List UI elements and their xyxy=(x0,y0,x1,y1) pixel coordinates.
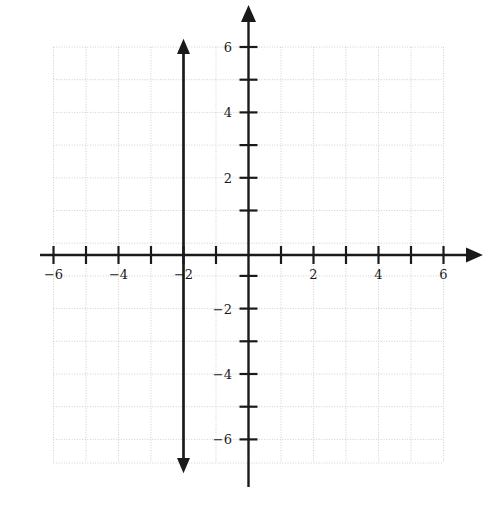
x-tick-label: 2 xyxy=(309,267,317,282)
x-tick-label: −4 xyxy=(109,267,128,282)
y-tick-label: 6 xyxy=(224,40,232,55)
y-tick-label: 2 xyxy=(224,171,232,186)
x-tick-label: 6 xyxy=(439,267,447,282)
y-tick-label: −2 xyxy=(213,302,232,317)
coordinate-plane-figure: −6 −4 −2 2 4 6 xyxy=(0,0,490,512)
y-tick-label: −4 xyxy=(213,367,232,382)
x-tick-label: 4 xyxy=(374,267,382,282)
y-tick-label: −6 xyxy=(213,432,232,447)
y-tick-label: 4 xyxy=(224,105,232,120)
y-axis: 6 4 2 −2 −4 −6 xyxy=(213,20,258,487)
y-axis-tick-labels: 6 4 2 −2 −4 −6 xyxy=(213,40,232,447)
graph-canvas: −6 −4 −2 2 4 6 xyxy=(0,0,490,512)
x-tick-label: −6 xyxy=(44,267,63,282)
x-axis-tick-labels: −6 −4 −2 2 4 6 xyxy=(44,267,448,282)
